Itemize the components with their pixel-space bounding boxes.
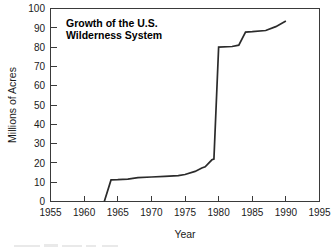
chart-title-line-2: Wilderness System bbox=[66, 29, 162, 41]
chart-title-line-1: Growth of the U.S. bbox=[66, 17, 158, 29]
x-tick-label-1970: 1970 bbox=[140, 207, 163, 218]
y-tick-label-10: 10 bbox=[34, 177, 46, 188]
y-tick-label-20: 20 bbox=[34, 158, 46, 169]
x-tick-label-1955: 1955 bbox=[39, 207, 62, 218]
y-tick-label-70: 70 bbox=[34, 61, 46, 72]
y-tick-label-0: 0 bbox=[39, 196, 45, 207]
x-tick-label-1995: 1995 bbox=[308, 207, 331, 218]
x-tick-label-1990: 1990 bbox=[275, 207, 298, 218]
y-tick-label-40: 40 bbox=[34, 119, 46, 130]
x-tick-label-1985: 1985 bbox=[241, 207, 264, 218]
chart-figure: 0 10 20 30 40 50 60 70 80 90 100 1955 bbox=[0, 0, 335, 250]
y-tick-label-50: 50 bbox=[34, 100, 46, 111]
y-tick-label-60: 60 bbox=[34, 80, 46, 91]
x-tick-label-1980: 1980 bbox=[207, 207, 230, 218]
x-axis-title: Year bbox=[174, 228, 196, 240]
y-tick-label-80: 80 bbox=[34, 42, 46, 53]
x-tick-label-1960: 1960 bbox=[73, 207, 96, 218]
x-tick-label-1965: 1965 bbox=[107, 207, 130, 218]
y-axis-tick-labels: 0 10 20 30 40 50 60 70 80 90 100 bbox=[28, 3, 45, 207]
x-axis-tick-labels: 1955 1960 1965 1970 1975 1980 1985 1990 … bbox=[39, 207, 331, 218]
y-tick-label-30: 30 bbox=[34, 138, 46, 149]
chart-title: Growth of the U.S. Wilderness System bbox=[66, 17, 162, 41]
y-tick-label-100: 100 bbox=[28, 3, 45, 14]
wilderness-growth-line-chart: 0 10 20 30 40 50 60 70 80 90 100 1955 bbox=[0, 0, 335, 250]
scan-artifact bbox=[14, 242, 134, 250]
y-axis-title: Millions of Acres bbox=[6, 67, 18, 143]
x-tick-label-1975: 1975 bbox=[174, 207, 197, 218]
y-tick-label-90: 90 bbox=[34, 23, 46, 34]
